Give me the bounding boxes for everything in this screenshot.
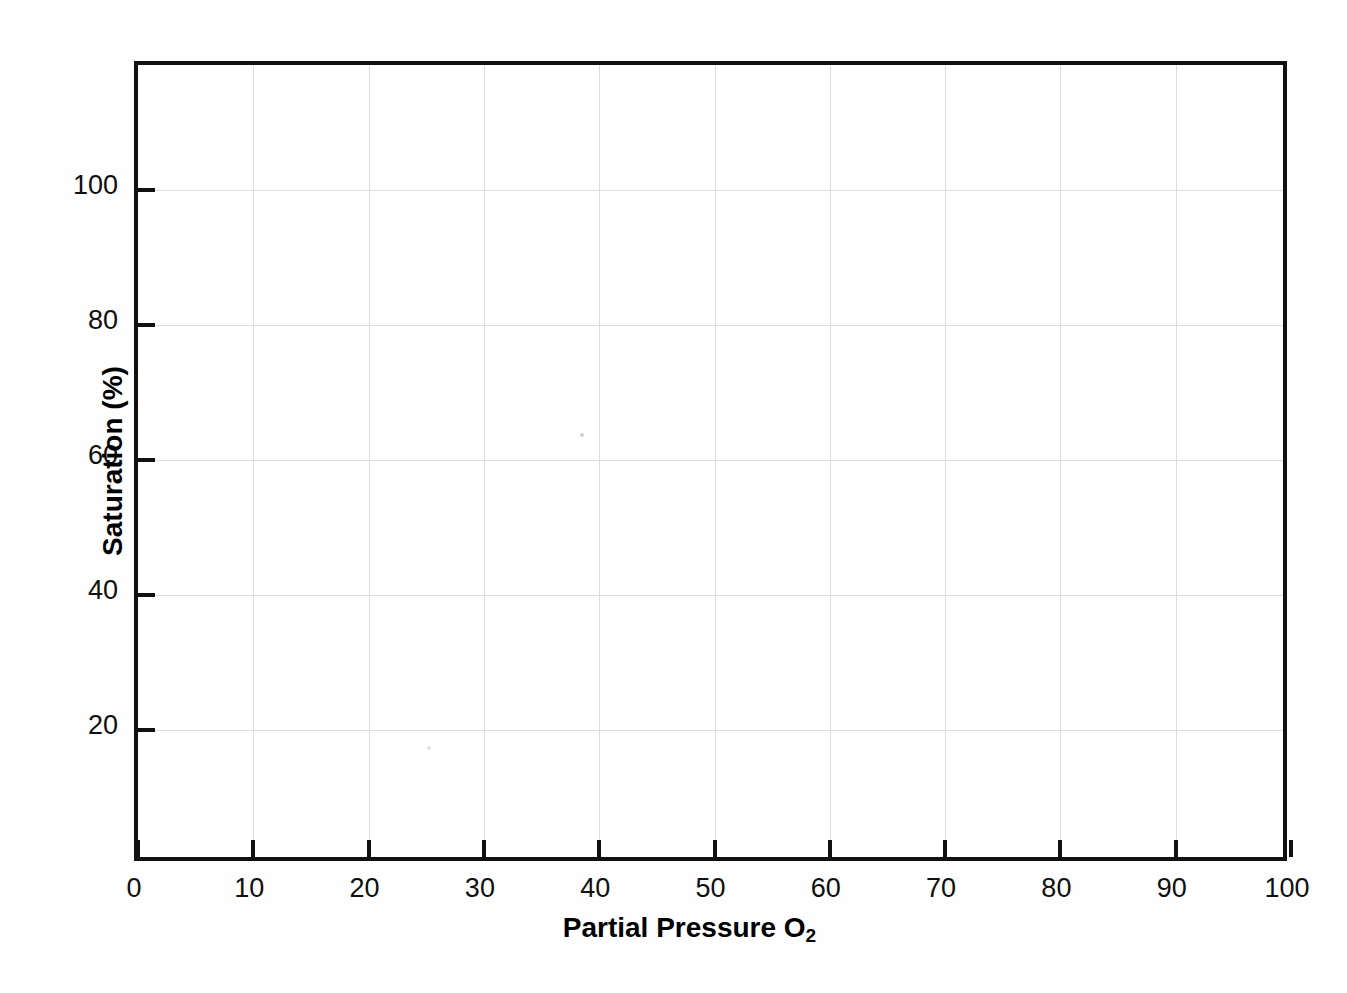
x-axis-tick-label: 90: [1112, 875, 1232, 902]
y-axis-tick: [138, 323, 155, 327]
gridline-vertical: [715, 65, 716, 857]
x-axis-tick: [1058, 840, 1062, 857]
scan-artifact: [427, 746, 431, 750]
gridline-horizontal: [138, 190, 1283, 191]
plot-area: [134, 61, 1287, 861]
gridline-vertical: [599, 65, 600, 857]
x-axis-tick: [597, 840, 601, 857]
x-axis-tick-label: 80: [996, 875, 1116, 902]
x-axis-tick: [136, 840, 140, 857]
gridline-vertical: [830, 65, 831, 857]
y-axis-tick-label: 40: [0, 577, 118, 604]
x-axis-tick: [943, 840, 947, 857]
gridline-vertical: [1060, 65, 1061, 857]
y-axis-title: Saturation (%): [97, 366, 129, 556]
y-axis-tick: [138, 458, 155, 462]
x-axis-tick: [828, 840, 832, 857]
x-axis-title-text: Partial Pressure O: [563, 912, 806, 943]
x-axis-tick-label: 40: [535, 875, 655, 902]
x-axis-title: Partial Pressure O2: [0, 912, 1347, 944]
x-axis-tick-label: 100: [1227, 875, 1347, 902]
gridline-vertical: [369, 65, 370, 857]
x-axis-tick-label: 0: [74, 875, 194, 902]
chart-page: 20406080100 0102030405060708090100 Satur…: [0, 0, 1347, 993]
x-axis-tick-label: 60: [766, 875, 886, 902]
x-axis-tick: [367, 840, 371, 857]
y-axis-tick: [138, 728, 155, 732]
x-axis-tick: [482, 840, 486, 857]
y-axis-tick-label: 20: [0, 712, 118, 739]
x-axis-tick-label: 20: [305, 875, 425, 902]
x-axis-tick-label: 10: [189, 875, 309, 902]
gridline-horizontal: [138, 460, 1283, 461]
y-axis-tick-label: 80: [0, 307, 118, 334]
x-axis-tick: [713, 840, 717, 857]
y-axis-tick-label: 100: [0, 172, 118, 199]
gridline-vertical: [945, 65, 946, 857]
y-axis-tick: [138, 188, 155, 192]
x-axis-tick-label: 70: [881, 875, 1001, 902]
x-axis-tick: [1289, 840, 1293, 857]
y-axis-tick: [138, 593, 155, 597]
gridlines: [138, 65, 1283, 857]
gridline-horizontal: [138, 730, 1283, 731]
scan-artifact: [580, 433, 584, 437]
gridline-vertical: [1176, 65, 1177, 857]
x-axis-tick: [251, 840, 255, 857]
x-axis-tick: [1174, 840, 1178, 857]
x-axis-tick-label: 50: [651, 875, 771, 902]
x-axis-title-subscript: 2: [806, 925, 817, 946]
gridline-vertical: [253, 65, 254, 857]
gridline-vertical: [484, 65, 485, 857]
gridline-horizontal: [138, 595, 1283, 596]
gridline-horizontal: [138, 325, 1283, 326]
x-axis-tick-label: 30: [420, 875, 540, 902]
